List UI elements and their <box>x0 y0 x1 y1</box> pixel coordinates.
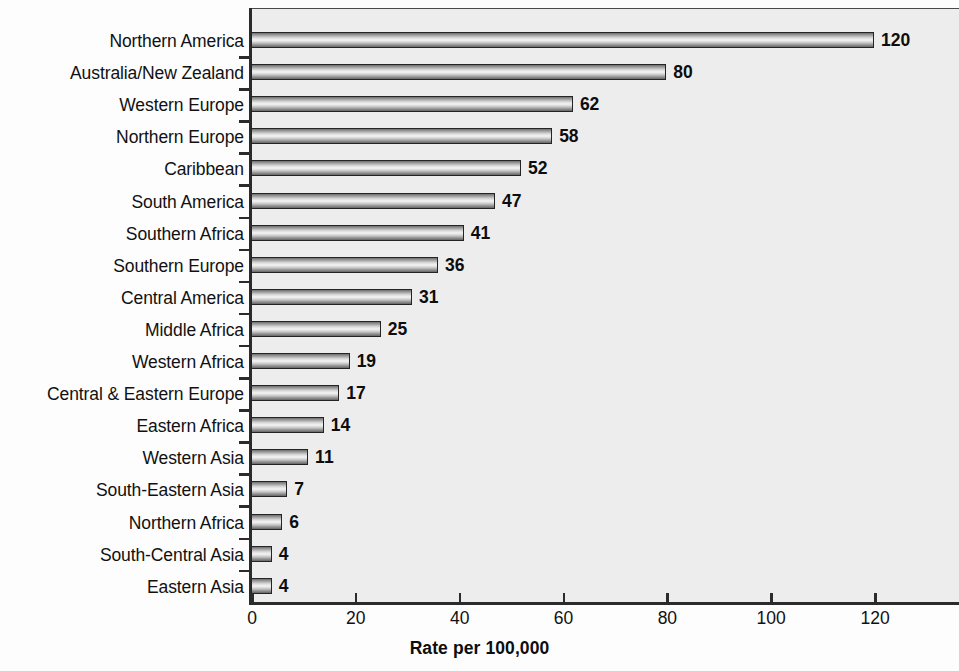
bar-row: Northern Africa6 <box>0 507 959 539</box>
bar-value-label: 58 <box>559 127 578 145</box>
category-label: Western Asia <box>142 442 244 474</box>
bar-row: Middle Africa25 <box>0 314 959 346</box>
category-label: Caribbean <box>164 153 244 185</box>
bar <box>251 449 308 465</box>
bar <box>251 417 324 433</box>
bar-row: Caribbean52 <box>0 153 959 185</box>
category-label: Central America <box>121 282 244 314</box>
bar-row: South America47 <box>0 186 959 218</box>
bar-value-label: 80 <box>673 63 692 81</box>
bar-value-label: 4 <box>279 545 289 563</box>
bar <box>251 514 282 530</box>
bar <box>251 64 666 80</box>
bar <box>251 546 272 562</box>
bar-row: Northern America120 <box>0 25 959 57</box>
category-label: South-Central Asia <box>100 539 244 571</box>
bar-value-label: 36 <box>445 256 464 274</box>
bar-value-label: 52 <box>528 159 547 177</box>
bar <box>251 225 464 241</box>
bar-row: Eastern Africa14 <box>0 410 959 442</box>
x-axis-tick <box>355 593 358 603</box>
bar-value-label: 19 <box>357 352 376 370</box>
category-label: Northern Europe <box>116 121 244 153</box>
bar-row: Western Europe62 <box>0 89 959 121</box>
bar-value-label: 6 <box>289 513 299 531</box>
bar-value-label: 25 <box>388 320 407 338</box>
bar <box>251 353 350 369</box>
x-axis-tick-label: 120 <box>860 606 889 630</box>
bar-value-label: 11 <box>315 448 334 466</box>
bar-value-label: 17 <box>346 384 365 402</box>
x-axis-tick <box>666 593 669 603</box>
bar-value-label: 31 <box>419 288 438 306</box>
bar-row: Northern Europe58 <box>0 121 959 153</box>
category-label: Australia/New Zealand <box>70 57 244 89</box>
bar-value-label: 62 <box>580 95 599 113</box>
x-axis-tick-label: 20 <box>346 606 365 630</box>
x-axis-tick <box>874 593 877 603</box>
bar-value-label: 14 <box>331 416 350 434</box>
bar-row: Central America31 <box>0 282 959 314</box>
bar <box>251 321 381 337</box>
bar-row: Southern Africa41 <box>0 218 959 250</box>
x-axis-tick-label: 80 <box>658 606 677 630</box>
bar <box>251 128 552 144</box>
bar-value-label: 41 <box>471 224 490 242</box>
bar <box>251 289 412 305</box>
x-axis-tick-label: 0 <box>247 606 257 630</box>
category-label: Central & Eastern Europe <box>47 378 244 410</box>
bar-row: Western Asia11 <box>0 442 959 474</box>
bar <box>251 257 438 273</box>
category-label: Southern Africa <box>126 218 244 250</box>
category-label: Northern America <box>109 25 244 57</box>
bar <box>251 578 272 594</box>
bar-row: Eastern Asia4 <box>0 571 959 603</box>
bar-row: South-Central Asia4 <box>0 539 959 571</box>
bar-chart: Northern America120Australia/New Zealand… <box>0 0 959 671</box>
bar-value-label: 47 <box>502 192 521 210</box>
bar <box>251 32 874 48</box>
bar <box>251 193 495 209</box>
bar-row: Australia/New Zealand80 <box>0 57 959 89</box>
category-label: South America <box>131 186 244 218</box>
category-label: Western Africa <box>132 346 244 378</box>
x-axis-tick-label: 60 <box>554 606 573 630</box>
x-axis-tick <box>563 593 566 603</box>
bar <box>251 160 521 176</box>
bar-value-label: 4 <box>279 577 289 595</box>
category-label: Middle Africa <box>145 314 244 346</box>
bar-row: Southern Europe36 <box>0 250 959 282</box>
bar-row: South-Eastern Asia7 <box>0 474 959 506</box>
bar-row: Central & Eastern Europe17 <box>0 378 959 410</box>
x-axis-tick <box>251 593 254 603</box>
bar <box>251 481 287 497</box>
category-label: Western Europe <box>119 89 244 121</box>
bar <box>251 96 573 112</box>
category-label: South-Eastern Asia <box>96 474 244 506</box>
x-axis-title: Rate per 100,000 <box>0 638 959 659</box>
bar-value-label: 7 <box>294 480 304 498</box>
category-label: Southern Europe <box>113 250 244 282</box>
x-axis-tick-label: 100 <box>757 606 786 630</box>
bar-value-label: 120 <box>881 31 910 49</box>
x-axis-tick-label: 40 <box>450 606 469 630</box>
bar-row: Western Africa19 <box>0 346 959 378</box>
x-axis-tick <box>459 593 462 603</box>
x-axis-tick <box>770 593 773 603</box>
bar <box>251 385 339 401</box>
category-label: Northern Africa <box>129 507 244 539</box>
category-label: Eastern Asia <box>147 571 244 603</box>
category-label: Eastern Africa <box>136 410 244 442</box>
